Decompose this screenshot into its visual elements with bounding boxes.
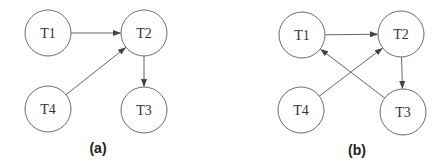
node-label: T1 — [294, 28, 310, 43]
node-label: T1 — [40, 26, 56, 41]
node-t2: T2 — [121, 10, 167, 56]
edge-t4-to-t2 — [66, 48, 126, 95]
node-t1: T1 — [279, 12, 325, 58]
caption-b: (b) — [348, 142, 366, 158]
node-label: T2 — [136, 26, 152, 41]
edge-t3-to-t1 — [321, 49, 385, 98]
node-label: T4 — [293, 103, 309, 118]
node-t3: T3 — [121, 87, 167, 133]
node-t2: T2 — [378, 11, 424, 57]
node-t1: T1 — [25, 10, 71, 56]
node-t3: T3 — [380, 89, 426, 135]
node-t4: T4 — [25, 86, 71, 132]
caption-a: (a) — [89, 140, 106, 156]
diagram-a: T1T2T4T3(a) — [25, 10, 167, 156]
node-label: T2 — [393, 27, 409, 42]
node-t4: T4 — [278, 87, 324, 133]
task-graph-figure: T1T2T4T3(a)T1T2T4T3(b) — [0, 0, 441, 164]
node-label: T3 — [395, 105, 411, 120]
node-label: T4 — [40, 102, 56, 117]
node-label: T3 — [136, 103, 152, 118]
edge-t2-to-t3 — [402, 57, 403, 89]
diagram-b: T1T2T4T3(b) — [278, 11, 426, 158]
edge-t1-to-t2 — [325, 34, 378, 35]
